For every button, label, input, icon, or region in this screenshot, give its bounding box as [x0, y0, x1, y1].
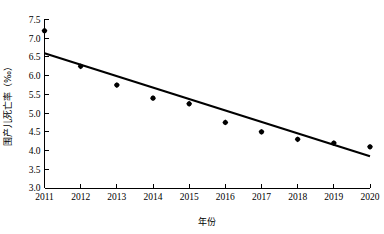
data-point-markers	[42, 28, 373, 150]
y-axis-title: 围产儿死亡率（‰）	[2, 62, 13, 146]
y-tick-label: 4.5	[29, 127, 41, 137]
data-point-marker	[186, 101, 192, 107]
y-tick-label: 7.5	[29, 15, 41, 25]
data-point-marker	[295, 136, 301, 142]
y-axis-tick-marks	[45, 20, 49, 189]
x-tick-label: 2016	[216, 192, 235, 202]
data-point-marker	[114, 82, 120, 88]
y-tick-label: 4.0	[29, 146, 41, 156]
x-axis-title: 年份	[198, 216, 216, 227]
x-tick-label: 2020	[361, 192, 380, 202]
y-tick-label: 6.0	[29, 71, 41, 81]
data-point-marker	[222, 120, 228, 126]
x-tick-label: 2015	[180, 192, 199, 202]
data-point-marker	[259, 129, 265, 135]
y-tick-label: 5.0	[29, 109, 41, 119]
x-tick-label: 2011	[35, 192, 54, 202]
y-tick-label: 6.5	[29, 52, 41, 62]
x-axis-tick-labels: 2011201220132014201520162017201820192020	[35, 192, 380, 202]
data-point-marker	[367, 144, 373, 150]
x-tick-label: 2018	[288, 192, 307, 202]
x-tick-label: 2017	[252, 192, 271, 202]
data-point-marker	[42, 28, 48, 34]
chart-figure: 3.03.54.04.55.05.56.06.57.07.5 201120122…	[0, 0, 384, 234]
scatter-plot-svg: 3.03.54.04.55.05.56.06.57.07.5 201120122…	[0, 0, 384, 234]
data-point-marker	[150, 95, 156, 101]
x-axis-tick-marks	[45, 184, 371, 188]
x-tick-label: 2012	[71, 192, 90, 202]
x-tick-label: 2014	[144, 192, 163, 202]
x-tick-label: 2019	[324, 192, 343, 202]
y-tick-label: 5.5	[29, 90, 41, 100]
trend-line	[45, 53, 371, 156]
y-axis-tick-labels: 3.03.54.04.55.05.56.06.57.07.5	[29, 15, 41, 194]
x-tick-label: 2013	[107, 192, 126, 202]
y-tick-label: 7.0	[29, 34, 41, 44]
y-tick-label: 3.5	[29, 165, 41, 175]
